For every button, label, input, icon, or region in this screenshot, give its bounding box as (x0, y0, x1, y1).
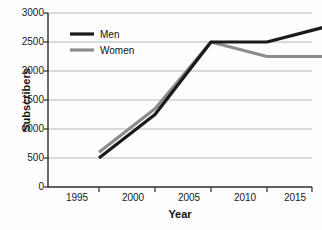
legend-label-women: Women (100, 45, 134, 56)
legend-label-men: Men (100, 29, 119, 40)
plot-area: Men Women (0, 0, 322, 230)
series-line-women (99, 42, 322, 152)
x-tick-marks (99, 187, 312, 192)
line-chart-figure: Subscribers 3000 2500 2000 1500 1000 500… (0, 0, 322, 230)
